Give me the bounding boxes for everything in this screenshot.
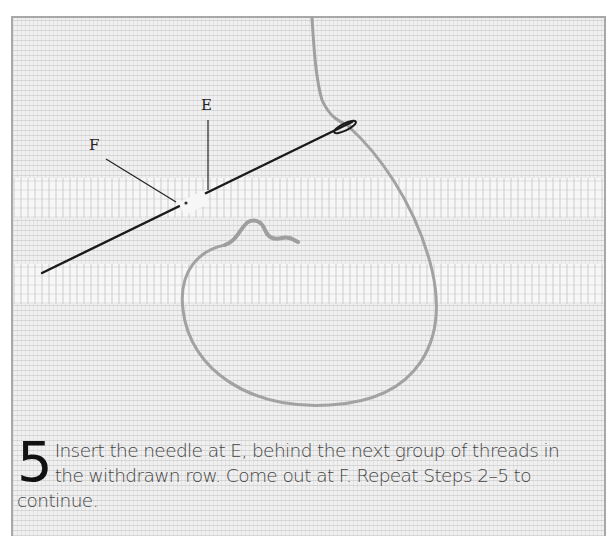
step-number: 5 — [17, 438, 51, 486]
stitch-wrap — [225, 220, 298, 245]
leader-line-f — [106, 159, 176, 202]
needle-under-fabric-gap — [178, 191, 209, 216]
step-instruction-text: Insert the needle at E, behind the next … — [17, 440, 559, 511]
label-f: F — [89, 136, 99, 154]
thread-loop — [182, 126, 436, 405]
label-e: E — [201, 96, 212, 114]
step-caption: 5 Insert the needle at E, behind the nex… — [17, 438, 577, 513]
thread-upper-strand — [312, 18, 350, 126]
fabric-hole-f — [184, 201, 187, 204]
